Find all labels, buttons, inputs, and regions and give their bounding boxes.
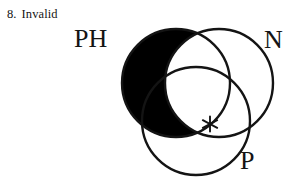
set-label-n: N bbox=[264, 27, 283, 53]
set-label-ph: PH bbox=[74, 26, 107, 52]
set-label-p: P bbox=[240, 148, 254, 174]
figure-page: 8.Invalid PH N P bbox=[0, 0, 301, 185]
venn-diagram bbox=[0, 0, 301, 185]
